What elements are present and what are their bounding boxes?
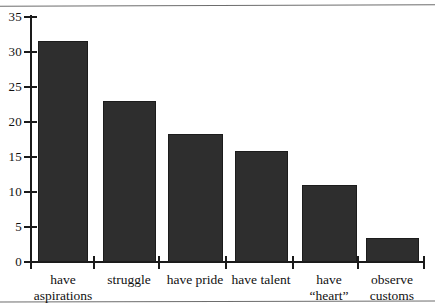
y-tick-5	[24, 226, 37, 228]
y-tick-label-35: 35	[2, 10, 22, 23]
x-tick-3	[225, 256, 227, 269]
y-tick-label-10: 10	[2, 185, 22, 198]
y-tick-30	[24, 51, 37, 53]
bar-5	[366, 238, 419, 262]
y-tick-35	[24, 16, 37, 18]
x-tick-0	[30, 256, 32, 269]
x-axis-line	[30, 261, 424, 263]
x-tick-2	[158, 256, 160, 269]
bar-3	[235, 151, 288, 262]
x-tick-6	[423, 256, 425, 269]
bar-1	[103, 101, 156, 262]
x-tick-1	[93, 256, 95, 269]
y-tick-label-20: 20	[2, 115, 22, 128]
y-tick-10	[24, 191, 37, 193]
bar-0	[38, 41, 88, 262]
y-tick-label-25: 25	[2, 80, 22, 93]
y-tick-label-0: 0	[2, 255, 22, 268]
x-tick-5	[357, 256, 359, 269]
bar-4	[302, 185, 357, 262]
y-tick-label-5: 5	[2, 220, 22, 233]
y-tick-label-30: 30	[2, 45, 22, 58]
bar-chart-figure: 05101520253035 have aspirationsstruggleh…	[0, 0, 435, 308]
bar-2	[168, 134, 223, 262]
x-axis-label-5: observe customs	[338, 272, 435, 303]
x-tick-4	[292, 256, 294, 269]
y-tick-15	[24, 156, 37, 158]
y-tick-25	[24, 86, 37, 88]
y-tick-label-15: 15	[2, 150, 22, 163]
y-tick-20	[24, 121, 37, 123]
